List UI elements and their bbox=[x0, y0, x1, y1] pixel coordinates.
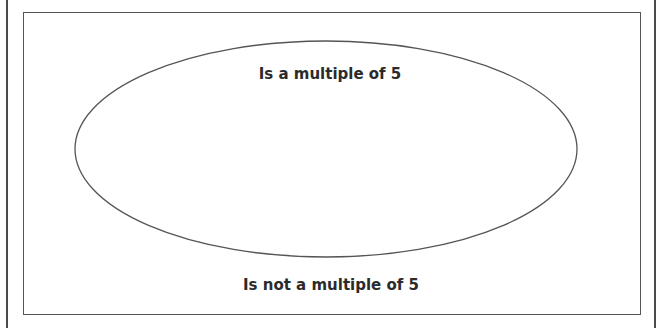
complement-label: Is not a multiple of 5 bbox=[243, 276, 419, 294]
set-label: Is a multiple of 5 bbox=[259, 65, 402, 83]
